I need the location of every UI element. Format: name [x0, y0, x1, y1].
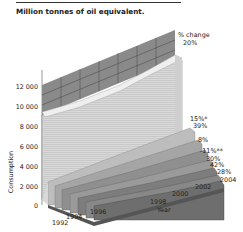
pct-series-4: 8% [198, 136, 208, 144]
x-tick-2000: 2000 [172, 190, 188, 198]
pct-series-1: 20% [183, 39, 197, 47]
y-tick-12000: 12 000 [16, 83, 38, 91]
y-tick-4000: 4 000 [20, 163, 38, 171]
pct-change-header: % change [178, 31, 210, 39]
x-tick-1998: 1998 [150, 198, 166, 206]
y-tick-0: 0 [34, 202, 38, 210]
pct-series-5: -11%** [200, 147, 223, 155]
x-tick-1994: 1994 [66, 213, 82, 221]
pct-series-8: 28% [217, 168, 231, 176]
pct-series-3: 39% [193, 122, 207, 130]
y-axis-label: Consumption [7, 151, 15, 193]
y-tick-10000: 10 000 [16, 103, 38, 111]
x-tick-2004: 2004 [220, 176, 236, 184]
x-axis-label: Year [156, 206, 171, 214]
x-tick-1996: 1996 [90, 208, 106, 216]
y-tick-2000: 2 000 [20, 183, 38, 191]
y-tick-8000: 8 000 [20, 123, 38, 131]
y-tick-6000: 6 000 [20, 143, 38, 151]
y-axis: 0 2 000 4 000 6 000 8 000 10 000 12 000 … [7, 70, 42, 210]
x-tick-2002: 2002 [195, 183, 211, 191]
chart-area: 0 2 000 4 000 6 000 8 000 10 000 12 000 … [0, 0, 243, 232]
